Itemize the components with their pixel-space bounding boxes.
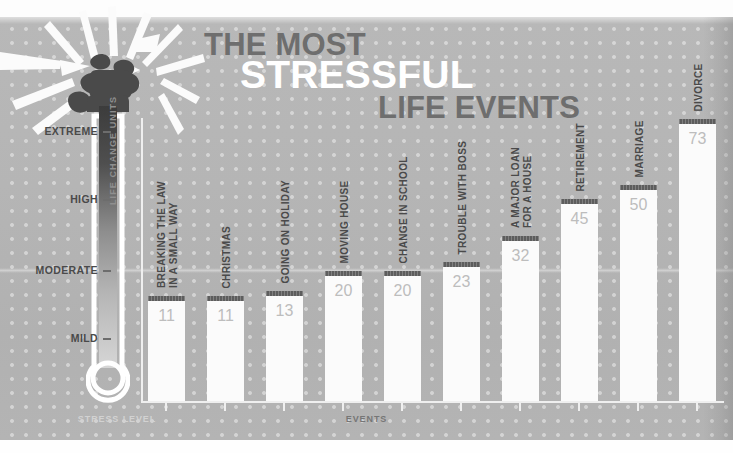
scale-label-moderate: MODERATE [18,264,98,276]
bar-4[interactable]: 20MOVING HOUSE [325,271,362,401]
bar-value: 11 [148,307,185,325]
scale-tick-moderate [103,270,111,272]
scale-label-mild: MILD [18,332,98,344]
bar-body [620,190,657,401]
y-axis-caption: LIFE CHANGE UNITS [108,96,118,205]
bar-6[interactable]: 23TROUBLE WITH BOSS [443,262,480,401]
x-axis-tick [165,403,167,411]
bar-label: A MAJOR LOANFOR A HOUSE [510,147,533,228]
bar-label: TROUBLE WITH BOSS [456,140,468,254]
bar-value: 50 [620,196,657,214]
x-axis-tick [401,403,403,411]
bar-value: 45 [561,210,598,228]
scale-label-extreme: EXTREME [18,125,98,137]
x-axis-tick [696,403,698,411]
bar-1[interactable]: 11BREAKING THE LAWIN A SMALL WAY [148,296,185,401]
scale-tick-extreme [103,131,111,133]
x-axis-tick [578,403,580,411]
x-axis-tick [460,403,462,411]
x-axis-tick [224,403,226,411]
bar-value: 73 [679,130,716,148]
bottom-margin [0,440,733,453]
bar-label: CHRISTMAS [220,225,232,288]
title-line-3: LIFE EVENTS [378,90,580,126]
bar-2[interactable]: 11CHRISTMAS [207,296,244,401]
bar-value: 23 [443,273,480,291]
bar-body [561,204,598,401]
bar-label: BREAKING THE LAWIN A SMALL WAY [156,181,179,288]
x-axis-caption: EVENTS [0,414,733,424]
x-axis-tick [283,403,285,411]
thermometer-icon [86,20,130,420]
bar-9[interactable]: 50MARRIAGE [620,185,657,401]
bar-label: CHANGE IN SCHOOL [397,156,409,263]
bar-label: MOVING HOUSE [338,180,350,263]
bar-7[interactable]: 32A MAJOR LOANFOR A HOUSE$ [502,236,539,401]
bar-10[interactable]: 73DIVORCE [679,119,716,401]
bar-value: 20 [384,282,421,300]
scale-label-high: HIGH [18,193,98,205]
bar-5[interactable]: 20CHANGE IN SCHOOL [384,271,421,401]
bar-value: 11 [207,307,244,325]
bar-body [679,124,716,401]
y-axis-line [141,118,143,403]
x-axis-tick [342,403,344,411]
scale-tick-high [103,199,111,201]
x-axis-tick [519,403,521,411]
bar-value: 20 [325,282,362,300]
bar-value: 13 [266,302,303,320]
bar-label: RETIREMENT [574,123,586,192]
scale-tick-mild [103,338,111,340]
bar-label: GOING ON HOLIDAY [279,179,291,283]
x-axis-tick [637,403,639,411]
bar-label: MARRIAGE [633,120,645,177]
bar-8[interactable]: 45RETIREMENT$ [561,199,598,401]
bar-label: DIVORCE [692,63,704,111]
bar-value: 32 [502,247,539,265]
bar-body [502,241,539,401]
bar-3[interactable]: 13GOING ON HOLIDAY [266,291,303,401]
infographic-canvas: LIFE CHANGE UNITS STRESS LEVEL EVENTS TH… [0,0,733,453]
